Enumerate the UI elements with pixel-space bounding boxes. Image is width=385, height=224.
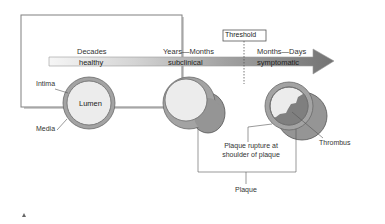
label-rupture-line1: Plaque rupture at: [215, 141, 287, 150]
figure-canvas: [0, 0, 385, 224]
warning-icon: [22, 213, 26, 217]
stage-healthy: healthy: [79, 58, 103, 67]
label-plaque: Plaque: [235, 186, 257, 193]
label-rupture-line2: shoulder of plaque: [215, 150, 287, 159]
threshold-label: Threshold: [225, 31, 256, 38]
label-decades: Decades: [77, 47, 107, 56]
label-lumen: Lumen: [79, 99, 102, 108]
label-media: Media: [36, 125, 55, 132]
stage-subclinical: subclinical: [168, 58, 203, 67]
label-thrombus: Thrombus: [319, 139, 351, 146]
rupture-leader: [248, 124, 272, 142]
stage-symptomatic: symptomatic: [257, 58, 299, 67]
label-years-months: Years—Months: [163, 47, 214, 56]
label-rupture: Plaque rupture at shoulder of plaque: [215, 141, 287, 159]
label-intima: Intima: [36, 80, 55, 87]
label-months-days: Months—Days: [257, 47, 306, 56]
vessel-subclinical-lumen: [165, 79, 207, 121]
media-leader: [57, 119, 67, 130]
